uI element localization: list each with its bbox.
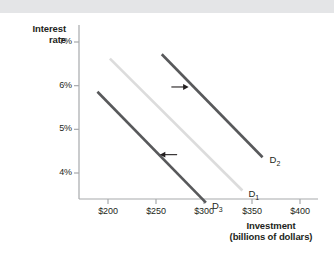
x-tick-label: $200	[85, 206, 131, 216]
x-tick-label: $250	[133, 206, 179, 216]
curve-label-base: D	[212, 200, 219, 211]
demand-curve-d2	[162, 54, 263, 157]
y-tick-label: 5%	[48, 123, 72, 133]
y-tick-marks	[74, 42, 79, 173]
demand-curves	[97, 54, 262, 202]
x-tick-label: $350	[229, 206, 275, 216]
curve-label-subscript: 3	[219, 206, 223, 213]
demand-curve-d3	[97, 92, 205, 203]
curve-label-d2: D2	[270, 154, 281, 167]
curve-label-subscript: 2	[276, 160, 280, 167]
y-tick-label: 4%	[48, 167, 72, 177]
y-tick-label: 7%	[48, 36, 72, 46]
curve-label-d3: D3	[212, 200, 223, 213]
y-tick-label: 6%	[48, 80, 72, 90]
curve-label-subscript: 1	[255, 194, 259, 201]
axis-lines	[79, 25, 318, 199]
rightward-shift-arrow-head	[183, 84, 189, 90]
investment-demand-chart: Interest rate Investment (billions of do…	[0, 0, 334, 253]
x-tick-label: $400	[277, 206, 323, 216]
curve-label-d1: D1	[248, 188, 259, 201]
